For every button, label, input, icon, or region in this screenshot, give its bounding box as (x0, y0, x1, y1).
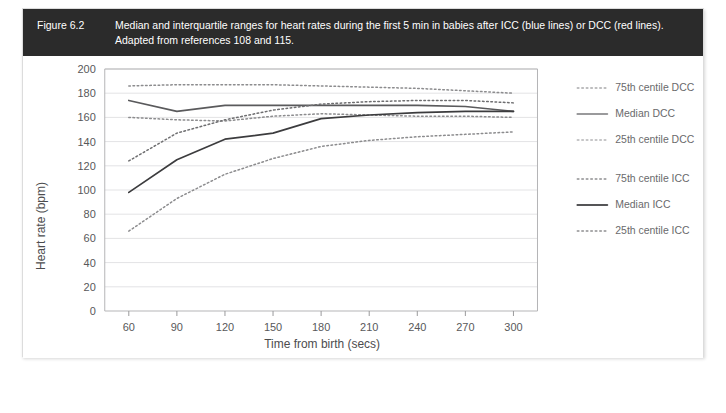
legend-label: 75th centile ICC (615, 173, 690, 184)
heart-rate-line-chart: 020406080100120140160180200 609012015018… (23, 56, 703, 358)
y-tick-label: 200 (78, 63, 96, 75)
series-median-dcc (129, 100, 514, 111)
gridlines (105, 69, 538, 287)
axis-ticks (129, 311, 514, 316)
y-tick-label: 0 (90, 305, 96, 317)
legend-label: 25th centile ICC (615, 225, 690, 236)
y-tick-label: 120 (78, 160, 96, 172)
x-tick-label: 60 (123, 321, 135, 333)
y-axis-tick-labels: 020406080100120140160180200 (78, 63, 96, 317)
figure-number: Figure 6.2 (37, 18, 115, 33)
y-tick-label: 20 (84, 281, 96, 293)
x-tick-label: 150 (264, 321, 282, 333)
legend-label: 25th centile DCC (615, 134, 694, 145)
y-tick-label: 100 (78, 184, 96, 196)
chart-legend: 75th centile DCCMedian DCC25th centile D… (577, 82, 694, 236)
x-tick-label: 120 (216, 321, 234, 333)
y-axis-title: Heart rate (bpm) (34, 182, 48, 270)
y-tick-label: 80 (84, 208, 96, 220)
series-75th-centile-dcc (129, 85, 514, 93)
series-median-icc (129, 111, 514, 192)
figure-caption-bar: Figure 6.2 Median and interquartile rang… (23, 9, 703, 56)
figure-card: Figure 6.2 Median and interquartile rang… (22, 8, 704, 357)
legend-label: 75th centile DCC (615, 82, 694, 93)
x-tick-label: 240 (408, 321, 426, 333)
x-tick-label: 90 (171, 321, 183, 333)
legend-label: Median ICC (615, 199, 671, 210)
legend-label: Median DCC (615, 108, 675, 119)
series-25th-centile-icc (129, 132, 514, 231)
figure-caption-line2: Adapted from references 108 and 115. (115, 34, 294, 46)
x-tick-label: 210 (360, 321, 378, 333)
x-axis-title: Time from birth (secs) (264, 337, 380, 351)
y-tick-label: 60 (84, 232, 96, 244)
x-axis-tick-labels: 6090120150180210240270300 (123, 321, 523, 333)
figure-caption: Median and interquartile ranges for hear… (115, 18, 691, 47)
y-tick-label: 40 (84, 257, 96, 269)
plot-card: 020406080100120140160180200 609012015018… (23, 56, 703, 358)
x-tick-label: 270 (456, 321, 474, 333)
x-tick-label: 180 (312, 321, 330, 333)
figure-caption-line1: Median and interquartile ranges for hear… (115, 19, 664, 31)
data-series (129, 85, 514, 231)
y-tick-label: 140 (78, 136, 96, 148)
x-tick-label: 300 (504, 321, 522, 333)
y-tick-label: 180 (78, 87, 96, 99)
y-tick-label: 160 (78, 111, 96, 123)
